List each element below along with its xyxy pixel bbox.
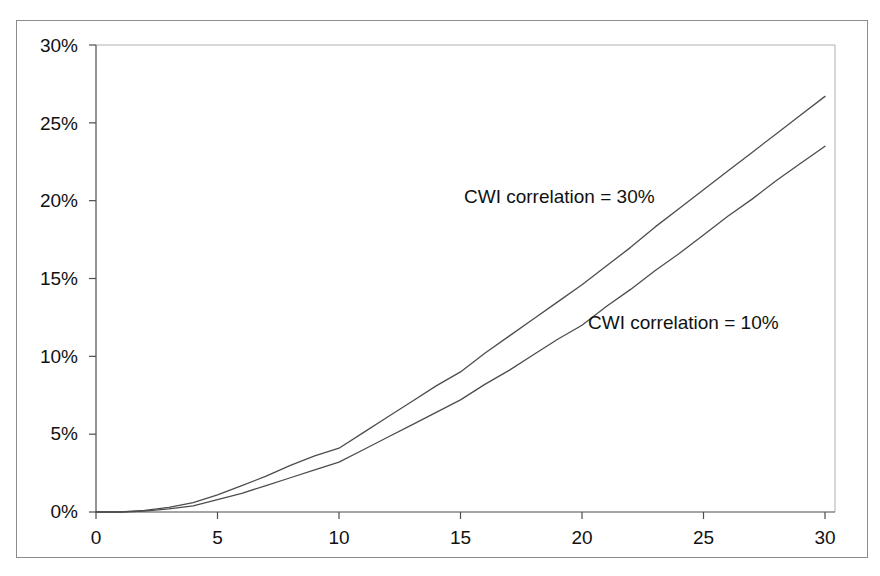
x-axis: [96, 512, 835, 519]
y-tick-label-15: 15%: [26, 268, 78, 290]
series-annotation-cwi-30: CWI correlation = 30%: [464, 186, 655, 208]
y-axis: [89, 45, 96, 512]
series-line-cwi-30: [96, 96, 825, 512]
y-tick-label-25: 25%: [26, 113, 78, 135]
y-tick-label-10: 10%: [26, 346, 78, 368]
plot-area-borders: [96, 45, 835, 512]
series-annotation-cwi-10: CWI correlation = 10%: [588, 312, 779, 334]
x-tick-label-15: 15: [450, 527, 471, 549]
x-tick-label-10: 10: [328, 527, 349, 549]
series-lines: [96, 96, 825, 512]
y-tick-label-20: 20%: [26, 190, 78, 212]
x-tick-label-20: 20: [571, 527, 592, 549]
x-tick-label-0: 0: [91, 527, 102, 549]
x-tick-label-25: 25: [693, 527, 714, 549]
y-tick-label-5: 5%: [26, 423, 78, 445]
chart-root: 0% 5% 10% 15% 20% 25% 30% 0 5 10 15 20 2…: [0, 0, 880, 576]
y-tick-label-30: 30%: [26, 35, 78, 57]
plot-svg: [0, 0, 880, 576]
x-tick-label-30: 30: [814, 527, 835, 549]
x-tick-label-5: 5: [212, 527, 223, 549]
y-tick-label-0: 0%: [26, 501, 78, 523]
